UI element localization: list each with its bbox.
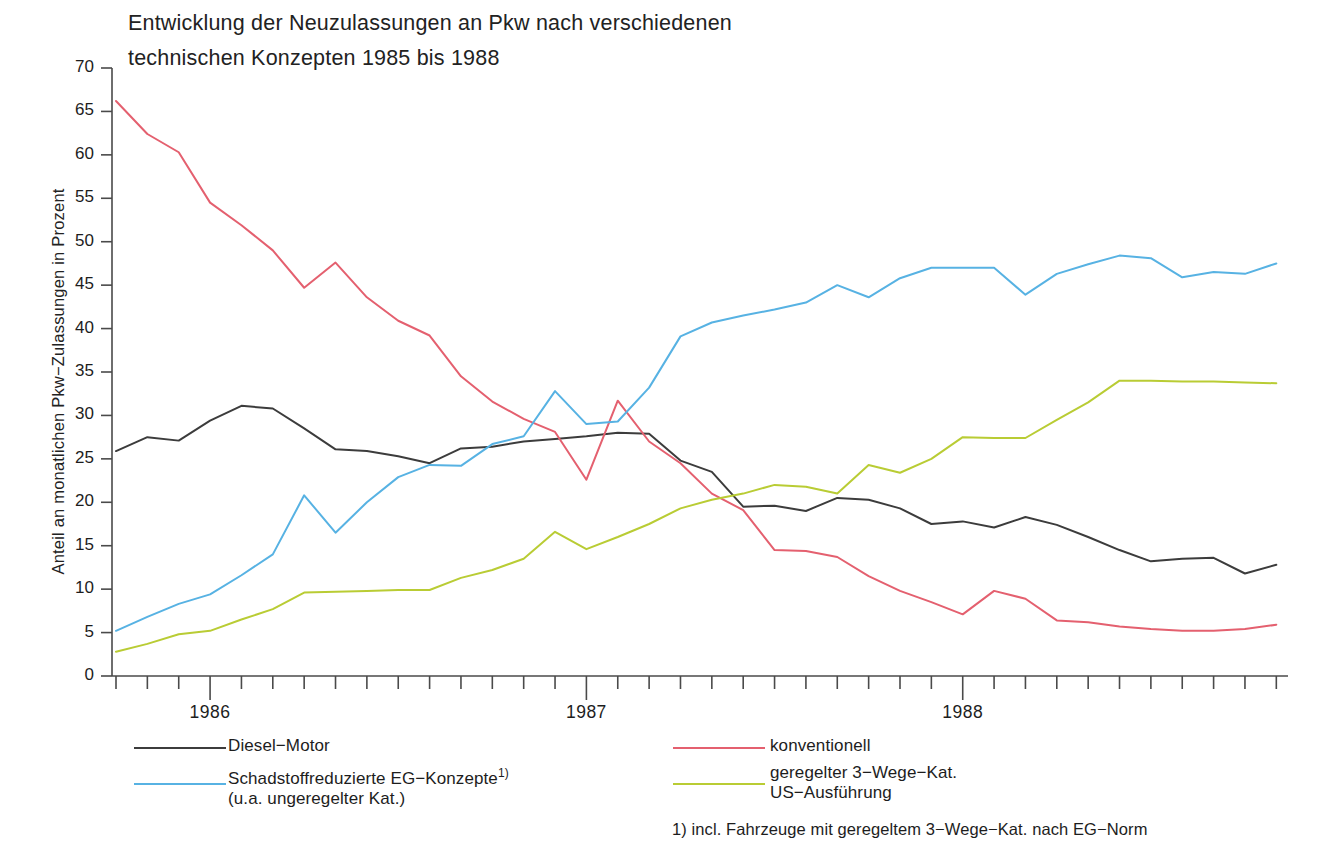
legend-label-3-wege-kat: geregelter 3−Wege−Kat.US−Ausführung [770, 763, 957, 803]
legend-label-eg-konzepte: Schadstoffreduzierte EG−Konzepte1)(u.a. … [228, 763, 509, 809]
legend-label-diesel: Diesel−Motor [228, 736, 330, 756]
legend-swatch-konventionell [673, 747, 765, 749]
legend-swatch-diesel [134, 747, 226, 749]
legend-label-eg-konzepte-line2: (u.a. ungeregelter Kat.) [228, 789, 405, 808]
legend-label-3-wege-kat-line1: geregelter 3−Wege−Kat. [770, 763, 957, 782]
legend-swatch-eg-konzepte [134, 783, 226, 785]
legend-label-eg-konzepte-line1: Schadstoffreduzierte EG−Konzepte [228, 769, 498, 788]
chart-legend: Diesel−Motor Schadstoffreduzierte EG−Kon… [0, 0, 1318, 851]
chart-footnote: 1) incl. Fahrzeuge mit geregeltem 3−Wege… [672, 820, 1148, 839]
legend-label-konventionell: konventionell [770, 736, 871, 756]
legend-footnote-marker: 1) [498, 766, 509, 780]
legend-swatch-3-wege-kat [673, 783, 765, 785]
legend-label-3-wege-kat-line2: US−Ausführung [770, 783, 892, 802]
